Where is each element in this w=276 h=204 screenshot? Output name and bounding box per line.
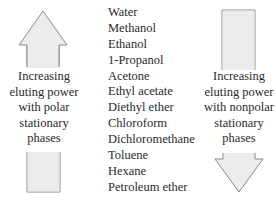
down-arrow-icon xyxy=(215,153,263,192)
solvent-list: Water Methanol Ethanol 1-Propanol Aceton… xyxy=(108,5,195,196)
solvent-item: 1-Propanol xyxy=(108,53,195,69)
solvent-item: Petroleum ether xyxy=(108,180,195,196)
down-arrow-tail xyxy=(222,10,255,70)
solvent-item: Toluene xyxy=(108,148,195,164)
caption-line: with nonpolar xyxy=(195,100,276,116)
solvent-item: Methanol xyxy=(108,21,195,37)
nonpolar-phase-caption: Increasing eluting power with nonpolar s… xyxy=(195,69,276,147)
caption-line: eluting power xyxy=(195,85,276,101)
solvent-item: Acetone xyxy=(108,69,195,85)
caption-line: phases xyxy=(195,131,276,147)
solvent-item: Water xyxy=(108,5,195,21)
caption-line: Increasing xyxy=(0,69,88,85)
eluotropic-series-diagram: Increasing eluting power with polar stat… xyxy=(0,0,276,204)
solvent-item: Diethyl ether xyxy=(108,100,195,116)
solvent-item: Chloroform xyxy=(108,116,195,132)
caption-line: Increasing xyxy=(195,69,276,85)
polar-phase-caption: Increasing eluting power with polar stat… xyxy=(0,69,88,147)
solvent-item: Ethyl acetate xyxy=(108,84,195,100)
solvent-item: Ethanol xyxy=(108,37,195,53)
caption-line: with polar xyxy=(0,100,88,116)
caption-line: phases xyxy=(0,131,88,147)
solvent-item: Hexane xyxy=(108,164,195,180)
solvent-item: Dichloromethane xyxy=(108,132,195,148)
caption-line: stationary xyxy=(195,116,276,132)
up-arrow-icon xyxy=(19,11,67,68)
caption-line: eluting power xyxy=(0,85,88,101)
up-arrow-tail xyxy=(27,152,60,192)
caption-line: stationary xyxy=(0,116,88,132)
